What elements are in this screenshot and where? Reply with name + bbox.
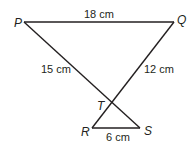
measure-label-qt: 12 cm	[144, 63, 174, 75]
segment-ps	[24, 22, 140, 128]
measure-label-pt: 15 cm	[41, 63, 71, 75]
measure-label-rs: 6 cm	[106, 131, 130, 143]
vertex-label-q: Q	[177, 13, 186, 27]
vertex-label-p: P	[14, 16, 22, 30]
triangle-diagram: P Q T R S 18 cm 15 cm 12 cm 6 cm	[0, 0, 191, 148]
measure-label-pq: 18 cm	[84, 8, 114, 20]
vertex-label-r: R	[81, 125, 90, 139]
vertex-label-s: S	[144, 124, 152, 138]
